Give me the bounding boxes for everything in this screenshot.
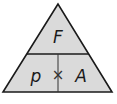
bottom-right-label: A bbox=[74, 66, 87, 86]
top-label: F bbox=[53, 27, 63, 47]
multiply-operator: × bbox=[52, 66, 65, 84]
bottom-left-label: p bbox=[30, 66, 42, 86]
formula-triangle: F p × A bbox=[0, 0, 117, 104]
